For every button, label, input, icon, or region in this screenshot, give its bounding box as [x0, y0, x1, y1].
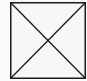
- image-placeholder-x-icon: [10, 2, 86, 79]
- image-placeholder: [10, 2, 86, 79]
